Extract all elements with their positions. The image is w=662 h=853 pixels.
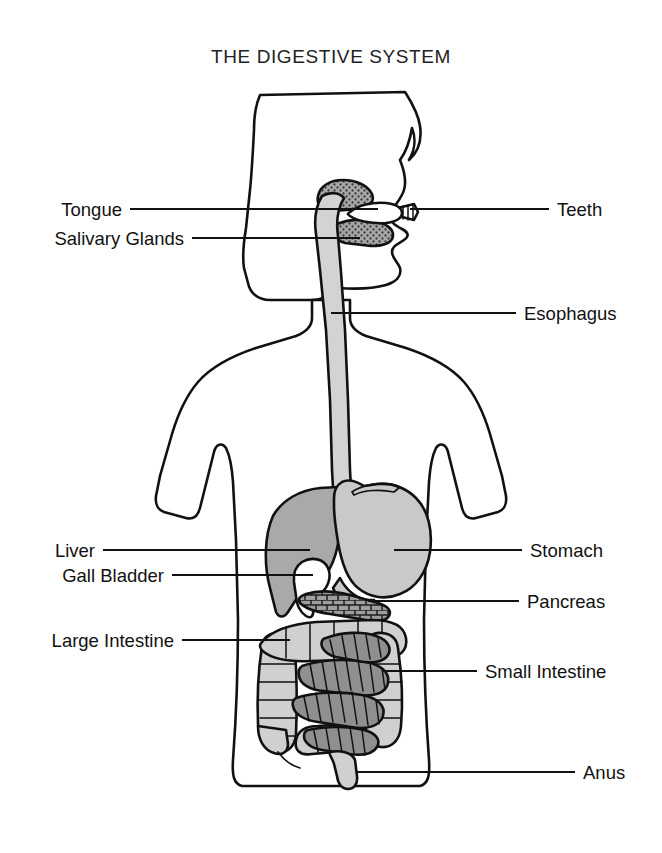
- label-pancreas: Pancreas: [527, 591, 605, 612]
- page-title: THE DIGESTIVE SYSTEM: [211, 46, 451, 67]
- label-gall-bladder: Gall Bladder: [62, 565, 164, 586]
- label-esophagus: Esophagus: [524, 303, 617, 324]
- label-stomach: Stomach: [530, 540, 603, 561]
- label-salivary-glands: Salivary Glands: [54, 228, 184, 249]
- label-teeth: Teeth: [557, 199, 602, 220]
- label-large-intestine: Large Intestine: [52, 630, 174, 651]
- label-tongue: Tongue: [61, 199, 122, 220]
- label-liver: Liver: [55, 540, 95, 561]
- digestive-system-diagram: THE DIGESTIVE SYSTEM: [0, 0, 662, 853]
- label-small-intestine: Small Intestine: [485, 661, 606, 682]
- label-anus: Anus: [583, 762, 625, 783]
